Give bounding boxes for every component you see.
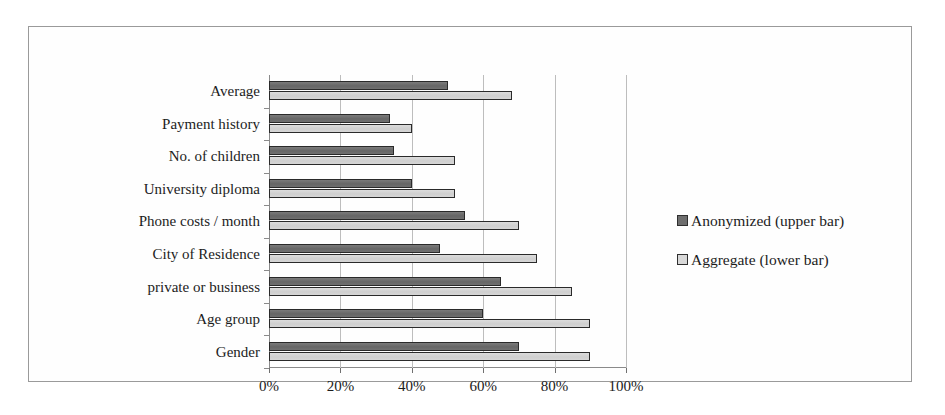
bar-anonymized [269, 81, 448, 90]
y-axis-category-label: Age group [196, 312, 260, 327]
chart-category-row: Payment history [269, 108, 626, 141]
x-axis-tick [555, 368, 556, 373]
chart-category-row: Average [269, 75, 626, 108]
chart-category-row: No. of children [269, 140, 626, 173]
chart-category-row: City of Residence [269, 238, 626, 271]
bar-aggregate [269, 319, 590, 328]
bar-anonymized [269, 277, 501, 286]
bar-anonymized [269, 211, 465, 220]
x-axis-tick-label: 40% [398, 378, 426, 395]
x-axis-tick-label: 20% [327, 378, 355, 395]
chart-frame: 0%20%40%60%80%100%AveragePayment history… [28, 26, 912, 382]
y-axis-category-label: Average [210, 84, 260, 99]
chart-category-row: Age group [269, 303, 626, 336]
bar-anonymized [269, 179, 412, 188]
bar-aggregate [269, 91, 512, 100]
bar-anonymized [269, 244, 440, 253]
y-axis-category-label: City of Residence [153, 247, 260, 262]
bar-anonymized [269, 146, 394, 155]
x-axis-tick-label: 60% [469, 378, 497, 395]
legend-swatch-dark-icon [677, 215, 688, 226]
x-axis-tick [626, 368, 627, 373]
bar-aggregate [269, 352, 590, 361]
y-axis-category-label: Gender [216, 345, 260, 360]
bar-aggregate [269, 221, 519, 230]
y-axis-category-label: Payment history [162, 117, 260, 132]
x-axis-tick [483, 368, 484, 373]
chart-legend: Anonymized (upper bar)Aggregate (lower b… [677, 213, 907, 290]
x-axis-tick [340, 368, 341, 373]
bar-aggregate [269, 156, 455, 165]
chart-category-row: Phone costs / month [269, 205, 626, 238]
legend-label: Aggregate (lower bar) [691, 252, 829, 268]
bar-aggregate [269, 124, 412, 133]
y-axis-tick [264, 368, 269, 369]
y-axis-category-label: University diploma [144, 182, 260, 197]
bar-anonymized [269, 114, 390, 123]
bar-anonymized [269, 309, 483, 318]
x-axis-tick [269, 368, 270, 373]
chart-page: 0%20%40%60%80%100%AveragePayment history… [0, 0, 945, 415]
y-axis-category-label: No. of children [169, 149, 260, 164]
bar-anonymized [269, 342, 519, 351]
plot-area: 0%20%40%60%80%100%AveragePayment history… [269, 75, 626, 368]
y-axis-category-label: private or business [148, 280, 260, 295]
legend-swatch-light-icon [677, 254, 688, 265]
chart-category-row: Gender [269, 335, 626, 368]
bar-aggregate [269, 254, 537, 263]
chart-category-row: private or business [269, 270, 626, 303]
x-axis-tick-label: 80% [541, 378, 569, 395]
x-axis-tick [412, 368, 413, 373]
x-axis-tick-label: 0% [259, 378, 279, 395]
legend-item[interactable]: Aggregate (lower bar) [677, 252, 907, 268]
x-axis-tick-label: 100% [609, 378, 644, 395]
bar-aggregate [269, 189, 455, 198]
legend-label: Anonymized (upper bar) [691, 213, 844, 229]
y-axis-category-label: Phone costs / month [139, 214, 260, 229]
legend-item[interactable]: Anonymized (upper bar) [677, 213, 907, 229]
x-gridline [626, 75, 627, 368]
bar-aggregate [269, 287, 572, 296]
chart-category-row: University diploma [269, 173, 626, 206]
